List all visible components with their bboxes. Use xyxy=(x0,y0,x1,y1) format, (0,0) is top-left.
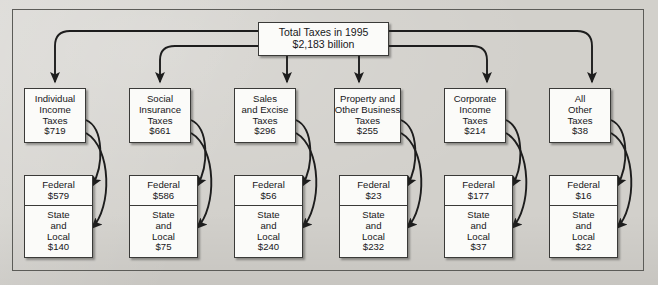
category-box-sales-and-excise-taxes: Sales and Excise Taxes $296 xyxy=(234,88,296,143)
category-amount: $214 xyxy=(464,126,485,137)
state-local-section: State and Local $232 xyxy=(340,206,407,257)
leaf-box-corporate-income-taxes: Federal $177 State and Local $37 xyxy=(444,175,513,258)
state-local-amount: $240 xyxy=(258,242,279,253)
state-local-section: State and Local $37 xyxy=(445,206,512,257)
leaf-box-social-insurance-taxes: Federal $586 State and Local $75 xyxy=(129,175,198,258)
federal-label: Federal xyxy=(357,180,390,191)
federal-label: Federal xyxy=(567,180,600,191)
total-taxes-amount: $2,183 billion xyxy=(293,39,355,51)
state-local-label: and xyxy=(50,221,66,232)
state-local-label: and xyxy=(365,221,381,232)
leaf-box-sales-and-excise-taxes: Federal $56 State and Local $240 xyxy=(234,175,303,258)
category-amount: $38 xyxy=(572,126,588,137)
category-line: Income xyxy=(39,105,70,116)
connector-total-to-individual xyxy=(55,31,258,82)
state-local-label: State xyxy=(467,210,489,221)
category-line: and Excise xyxy=(242,105,289,116)
state-local-label: State xyxy=(572,210,594,221)
federal-label: Federal xyxy=(462,180,495,191)
leaf-box-all-other-taxes: Federal $16 State and Local $22 xyxy=(549,175,618,258)
state-local-amount: $75 xyxy=(155,242,171,253)
federal-amount: $16 xyxy=(575,191,591,202)
federal-amount: $579 xyxy=(48,191,69,202)
federal-section: Federal $177 xyxy=(445,176,512,206)
state-local-label: and xyxy=(155,221,171,232)
state-local-section: State and Local $240 xyxy=(235,206,302,257)
state-local-section: State and Local $22 xyxy=(550,206,617,257)
connector-total-to-allother xyxy=(389,31,592,82)
category-line: Other xyxy=(568,105,592,116)
leaf-box-property-and-other-business-taxes: Federal $23 State and Local $232 xyxy=(339,175,408,258)
total-taxes-box: Total Taxes in 1995 $2,183 billion xyxy=(258,22,389,56)
category-line: Individual xyxy=(35,94,76,105)
federal-section: Federal $16 xyxy=(550,176,617,206)
state-local-amount: $140 xyxy=(48,242,69,253)
state-local-amount: $232 xyxy=(363,242,384,253)
federal-section: Federal $586 xyxy=(130,176,197,206)
leaf-box-individual-income-taxes: Federal $579 State and Local $140 xyxy=(24,175,93,258)
federal-amount: $177 xyxy=(468,191,489,202)
category-line: Other Business xyxy=(335,105,401,116)
state-local-label: State xyxy=(152,210,174,221)
state-local-label: State xyxy=(362,210,384,221)
federal-amount: $23 xyxy=(365,191,381,202)
category-amount: $255 xyxy=(357,126,378,137)
category-line: Sales xyxy=(253,94,277,105)
state-local-section: State and Local $75 xyxy=(130,206,197,257)
category-amount: $296 xyxy=(254,126,275,137)
state-local-label: and xyxy=(260,221,276,232)
category-box-all-other-taxes: All Other Taxes $38 xyxy=(549,88,611,143)
category-box-property-and-other-business-taxes: Property and Other Business Taxes $255 xyxy=(334,88,401,143)
category-box-corporate-income-taxes: Corporate Income Taxes $214 xyxy=(444,88,506,143)
state-local-amount: $37 xyxy=(470,242,486,253)
federal-section: Federal $579 xyxy=(25,176,92,206)
category-amount: $661 xyxy=(149,126,170,137)
federal-label: Federal xyxy=(252,180,285,191)
connector-total-to-social xyxy=(160,46,258,82)
category-box-individual-income-taxes: Individual Income Taxes $719 xyxy=(24,88,86,143)
state-local-label: State xyxy=(257,210,279,221)
category-line: Income xyxy=(459,105,490,116)
category-amount: $719 xyxy=(44,126,65,137)
category-line: Corporate xyxy=(454,94,497,105)
state-local-section: State and Local $140 xyxy=(25,206,92,257)
state-local-label: and xyxy=(470,221,486,232)
category-line: All xyxy=(575,94,586,105)
connector-total-to-corporate xyxy=(389,46,487,82)
federal-amount: $586 xyxy=(153,191,174,202)
federal-amount: $56 xyxy=(260,191,276,202)
category-line: Property and xyxy=(340,94,395,105)
federal-section: Federal $23 xyxy=(340,176,407,206)
category-line: Insurance xyxy=(139,105,181,116)
state-local-amount: $22 xyxy=(575,242,591,253)
state-local-label: State xyxy=(47,210,69,221)
federal-label: Federal xyxy=(42,180,75,191)
category-box-social-insurance-taxes: Social Insurance Taxes $661 xyxy=(129,88,191,143)
category-line: Social xyxy=(147,94,173,105)
federal-section: Federal $56 xyxy=(235,176,302,206)
state-local-label: and xyxy=(575,221,591,232)
federal-label: Federal xyxy=(147,180,180,191)
diagram-canvas: Total Taxes in 1995 $2,183 billion Indiv… xyxy=(0,0,658,285)
